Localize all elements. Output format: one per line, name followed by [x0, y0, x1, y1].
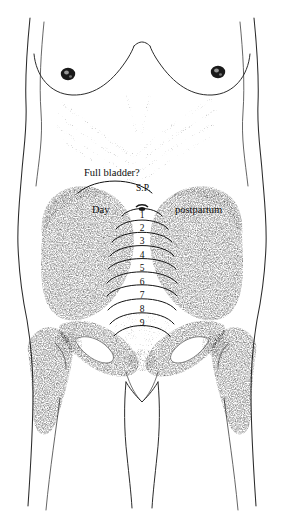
day-number-2: 2	[140, 223, 145, 233]
day-number-1: 1	[140, 210, 145, 220]
left-nipple	[61, 68, 75, 80]
day-number-7: 7	[140, 290, 145, 300]
day-number-5: 5	[140, 263, 145, 273]
postpartum-label: postpartum	[175, 204, 222, 215]
fundal-height-figure: 1 2 3 4 5 6 7 8 9 Full bladder? S.P. Day…	[0, 0, 284, 514]
right-femoral-head	[202, 332, 230, 356]
full-bladder-label: Full bladder?	[84, 167, 140, 178]
left-femoral-head	[54, 332, 82, 356]
day-number-8: 8	[140, 304, 145, 314]
day-number-9: 9	[140, 318, 145, 328]
day-number-6: 6	[140, 277, 145, 287]
pubic-symphysis	[129, 349, 155, 371]
day-label: Day	[92, 204, 110, 215]
day-number-3: 3	[140, 236, 145, 246]
right-nipple	[211, 66, 225, 78]
symphysis-pubis-label: S.P.	[136, 183, 150, 193]
day-number-4: 4	[140, 250, 145, 260]
anatomical-illustration: 1 2 3 4 5 6 7 8 9 Full bladder? S.P. Day…	[0, 0, 284, 514]
